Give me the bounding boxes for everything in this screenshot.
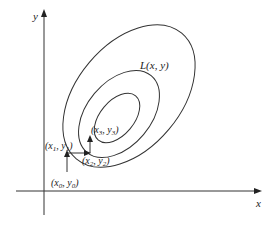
point-label-x2-y2: (x2, y2) xyxy=(82,155,110,168)
y-axis-arrow-icon xyxy=(41,9,47,17)
x-axis-arrow-icon xyxy=(254,188,262,194)
contour-inner xyxy=(85,85,148,151)
y-axis-label: y xyxy=(32,10,38,22)
contour-outer xyxy=(36,0,221,192)
point-label-x1-y1: (x1, y1) xyxy=(45,140,73,153)
point-label-x0-y0: (x0, y0) xyxy=(51,177,79,190)
x-axis-label: x xyxy=(255,197,261,209)
gradient-descent-diagram: y x L(x, y) (x0, y0) (x1, y1) (x2, y2) (… xyxy=(0,0,273,230)
function-label: L(x, y) xyxy=(139,59,169,72)
arrow-point-3-icon xyxy=(87,135,93,142)
contour-middle xyxy=(62,55,175,173)
point-labels: (x0, y0) (x1, y1) (x2, y2) (x3, y3) xyxy=(45,124,119,190)
contour-lines xyxy=(36,0,221,192)
